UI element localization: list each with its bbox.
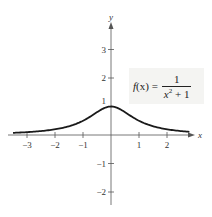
x-tick-label: −3 — [22, 140, 32, 150]
denominator-rest: + 1 — [172, 88, 189, 100]
y-axis-label: y — [108, 12, 113, 22]
y-axis-arrow-icon — [109, 22, 114, 29]
x-tick-label: 2 — [165, 140, 170, 150]
formula-lhs: f(x) = — [133, 80, 158, 92]
x-tick-label: −1 — [78, 140, 88, 150]
fraction-denominator: x2 + 1 — [162, 88, 192, 100]
y-tick-label: 1 — [102, 96, 107, 106]
y-tick-label: 2 — [102, 73, 107, 83]
formula-fraction: 1 x2 + 1 — [162, 73, 192, 100]
y-tick-label: 3 — [102, 45, 107, 55]
curve-f-of-x — [13, 107, 189, 133]
y-tick-label: −2 — [96, 187, 106, 197]
fraction-bar — [162, 86, 192, 87]
x-axis-label: x — [197, 130, 202, 140]
x-tick-label: −2 — [50, 140, 60, 150]
x-tick-label: 1 — [137, 140, 142, 150]
y-tick-label: −1 — [96, 159, 106, 169]
formula-label: f(x) = 1 x2 + 1 — [133, 70, 191, 102]
function-argument: (x) — [136, 80, 149, 92]
fraction-numerator: 1 — [172, 73, 182, 85]
x-axis-arrow-icon — [188, 133, 195, 138]
function-plot: −3−2−112−2−1123 x y — [0, 0, 212, 217]
equals-sign: = — [152, 80, 158, 92]
